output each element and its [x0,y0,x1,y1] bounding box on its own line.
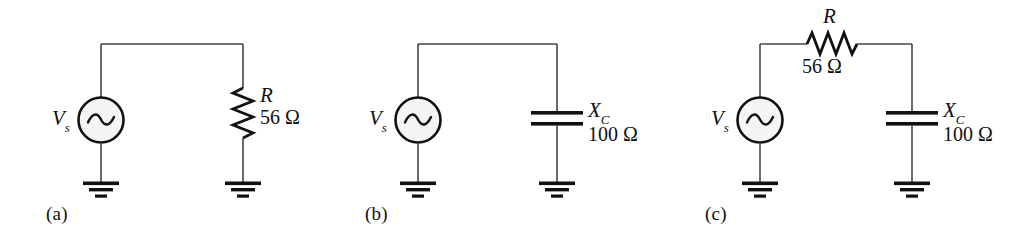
resistor-symbol-label-c: R [823,5,836,28]
circuit-b-group [396,44,584,198]
circuit-figure-canvas [0,0,1021,239]
ground-icon-a-right [225,182,261,198]
source-symbol-a: V [52,106,65,130]
resistor-value-label-c: 56 Ω [802,56,842,78]
capacitor-symbol-row-c: XC [943,99,993,124]
resistor-value-c: 56 Ω [802,55,842,77]
capacitor-icon-c [886,111,938,126]
ground-icon-b-right [539,182,575,198]
ground-icon-b-left [400,182,436,198]
source-label-c: Vs [711,107,729,132]
source-subscript-a: s [65,120,70,135]
caption-a: (a) [46,203,68,225]
caption-c: (c) [705,203,727,225]
capacitor-label-b: XC 100 Ω [588,99,638,146]
source-subscript-c: s [724,120,729,135]
resistor-icon-c [807,33,857,54]
resistor-value-a: 56 Ω [260,107,300,129]
source-label-a: Vs [52,107,70,132]
circuit-a-group [79,44,262,198]
capacitor-label-c: XC 100 Ω [943,99,993,146]
ground-icon-a-left [83,182,119,198]
capacitor-icon-b [531,111,583,126]
resistor-icon-a [233,88,253,138]
caption-b: (b) [365,203,388,225]
capacitor-value-c: 100 Ω [943,124,993,146]
capacitor-symbol-c: X [943,98,956,122]
source-subscript-b: s [382,120,387,135]
capacitor-subscript-c: C [956,112,965,127]
resistor-label-a: R 56 Ω [260,84,300,128]
resistor-symbol-c: R [823,4,836,28]
source-label-b: Vs [369,107,387,132]
capacitor-value-b: 100 Ω [588,124,638,146]
source-symbol-c: V [711,106,724,130]
capacitor-symbol-b: X [588,98,601,122]
resistor-symbol-a: R [260,84,300,107]
ground-icon-c-right [894,182,930,198]
capacitor-subscript-b: C [601,112,610,127]
source-symbol-b: V [369,106,382,130]
ground-icon-c-left [742,182,778,198]
capacitor-symbol-row-b: XC [588,99,638,124]
